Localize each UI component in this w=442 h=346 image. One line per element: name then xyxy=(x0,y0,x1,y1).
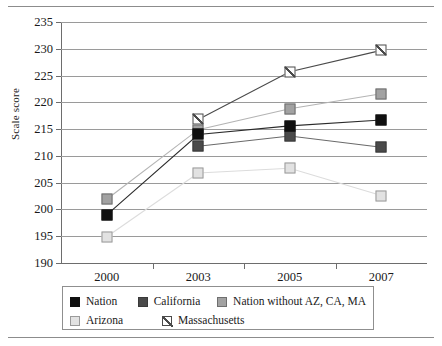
y-tick-label: 215 xyxy=(34,122,53,137)
bottom-rule xyxy=(8,337,434,338)
legend-label-massachusetts: Massachusetts xyxy=(178,315,244,327)
x-tick-mark xyxy=(336,263,337,269)
x-tick-label: 2003 xyxy=(186,270,211,285)
y-axis-label: Scale score xyxy=(9,74,21,154)
x-tick-label: 2000 xyxy=(94,270,119,285)
y-tick-label: 190 xyxy=(34,256,53,271)
legend-swatch-arizona-icon xyxy=(70,316,80,326)
y-tick-label: 205 xyxy=(34,175,53,190)
data-point-marker xyxy=(193,114,204,125)
data-point-marker xyxy=(193,141,204,152)
x-tick-mark xyxy=(153,263,154,269)
data-point-marker xyxy=(284,120,295,131)
data-point-marker xyxy=(376,45,387,56)
y-tick-label: 220 xyxy=(34,95,53,110)
x-tick-mark xyxy=(244,263,245,269)
legend-label-california: California xyxy=(154,296,201,308)
chart-legend: Nation California Nation without AZ, CA,… xyxy=(62,286,374,330)
chart-figure: Scale score 1901952002052102152202252302… xyxy=(0,0,442,346)
x-tick-label: 2005 xyxy=(277,270,302,285)
legend-label-nation-without: Nation without AZ, CA, MA xyxy=(233,296,366,308)
data-point-marker xyxy=(376,142,387,153)
data-point-marker xyxy=(376,88,387,99)
data-point-marker xyxy=(101,231,112,242)
y-tick-label: 210 xyxy=(34,148,53,163)
legend-item-nation[interactable]: Nation xyxy=(70,296,138,308)
y-tick-label: 195 xyxy=(34,229,53,244)
legend-item-california[interactable]: California xyxy=(138,296,217,308)
legend-swatch-nation-without-icon xyxy=(217,297,227,307)
y-tick-label: 225 xyxy=(34,68,53,83)
series-lines xyxy=(61,22,427,263)
legend-label-nation: Nation xyxy=(86,296,117,308)
y-tick-label: 230 xyxy=(34,41,53,56)
x-tick-label: 2007 xyxy=(369,270,394,285)
data-point-marker xyxy=(284,66,295,77)
legend-item-massachusetts[interactable]: Massachusetts xyxy=(162,315,244,327)
legend-swatch-nation-icon xyxy=(70,297,80,307)
legend-row-1: Nation California Nation without AZ, CA,… xyxy=(70,292,366,311)
data-point-marker xyxy=(284,131,295,142)
data-point-marker xyxy=(284,103,295,114)
legend-row-2: Arizona Massachusetts xyxy=(70,311,366,330)
top-rule xyxy=(8,6,434,7)
y-tick-label: 235 xyxy=(34,15,53,30)
legend-item-nation-without[interactable]: Nation without AZ, CA, MA xyxy=(217,296,366,308)
legend-label-arizona: Arizona xyxy=(86,315,123,327)
data-point-marker xyxy=(376,115,387,126)
plot-area: 190195200205210215220225230235 200020032… xyxy=(61,22,427,263)
data-point-marker xyxy=(101,209,112,220)
legend-item-arizona[interactable]: Arizona xyxy=(70,315,162,327)
legend-swatch-massachusetts-icon xyxy=(162,316,172,326)
data-point-marker xyxy=(284,163,295,174)
data-point-marker xyxy=(193,168,204,179)
y-tick-mark xyxy=(56,263,61,264)
data-point-marker xyxy=(376,190,387,201)
y-tick-label: 200 xyxy=(34,202,53,217)
legend-swatch-california-icon xyxy=(138,297,148,307)
data-point-marker xyxy=(101,194,112,205)
data-point-marker xyxy=(193,129,204,140)
